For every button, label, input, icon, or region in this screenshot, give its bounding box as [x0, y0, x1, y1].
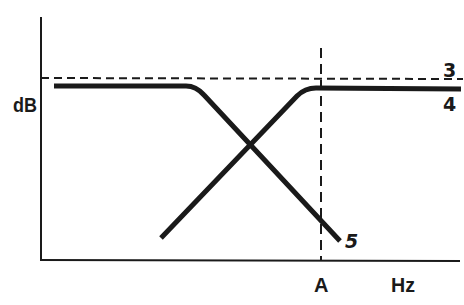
frequency-marker-label-a: A — [314, 274, 328, 296]
curve-4-high-pass — [161, 88, 461, 238]
x-axis-label: Hz — [391, 274, 415, 296]
curve-5-low-pass — [54, 86, 340, 241]
frequency-response-diagram: dB Hz A 3 4 5 — [0, 0, 464, 305]
reference-line-3 — [41, 78, 463, 79]
curve-label-4: 4 — [443, 93, 456, 115]
y-axis-label: dB — [13, 94, 37, 116]
curve-label-5: 5 — [345, 230, 358, 252]
x-axis — [40, 260, 460, 261]
reference-line-label-3: 3 — [443, 59, 456, 81]
